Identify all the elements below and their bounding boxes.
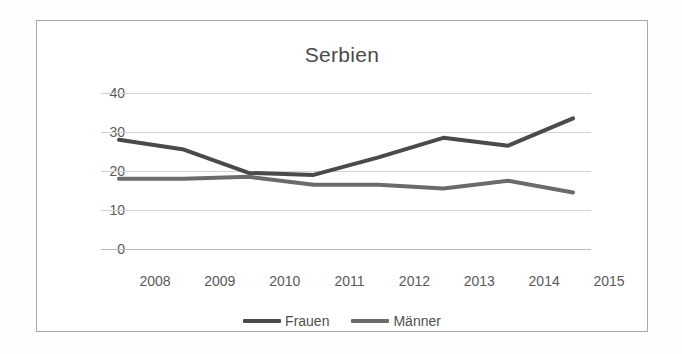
plot-area: [101, 93, 591, 249]
legend-label: Frauen: [285, 313, 329, 329]
series-lines: [101, 93, 591, 249]
legend-item-frauen[interactable]: Frauen: [243, 313, 329, 329]
gridline-0: [101, 249, 591, 250]
x-tick-label-2013: 2013: [449, 273, 509, 289]
series-line-frauen: [119, 118, 573, 175]
x-tick-label-2015: 2015: [579, 273, 639, 289]
legend-swatch-icon: [243, 319, 281, 323]
series-line-männer: [119, 177, 573, 193]
legend-item-männer[interactable]: Männer: [351, 313, 440, 329]
x-tick-label-2008: 2008: [125, 273, 185, 289]
chart-frame: Serbien 010203040 2008200920102011201220…: [36, 20, 648, 332]
x-axis: 20082009201020112012201320142015: [137, 273, 627, 299]
chart-legend: FrauenMänner: [37, 313, 647, 329]
chart-title: Serbien: [37, 43, 647, 67]
x-tick-label-2011: 2011: [320, 273, 380, 289]
x-tick-label-2009: 2009: [190, 273, 250, 289]
x-tick-label-2014: 2014: [514, 273, 574, 289]
x-tick-label-2010: 2010: [255, 273, 315, 289]
legend-label: Männer: [393, 313, 440, 329]
legend-swatch-icon: [351, 319, 389, 323]
x-tick-label-2012: 2012: [384, 273, 444, 289]
